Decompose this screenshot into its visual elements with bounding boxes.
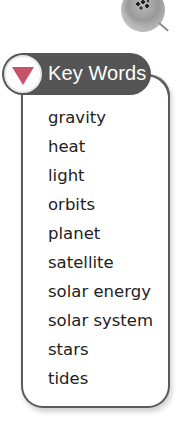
key-word-item: gravity (48, 107, 153, 136)
planet-icon (121, 0, 165, 32)
planet-spots (135, 0, 151, 10)
planet-tail (158, 22, 168, 31)
key-word-item: solar energy (48, 281, 153, 310)
key-word-item: satellite (48, 252, 153, 281)
triangle-down-icon (12, 67, 34, 85)
key-word-item: orbits (48, 194, 153, 223)
key-word-item: tides (48, 368, 153, 397)
key-words-list: gravity heat light orbits planet satelli… (48, 107, 153, 397)
key-words-title: Key Words (48, 60, 146, 86)
key-word-item: heat (48, 136, 153, 165)
key-word-item: stars (48, 339, 153, 368)
key-word-item: light (48, 165, 153, 194)
key-word-item: planet (48, 223, 153, 252)
key-words-header: Key Words (2, 53, 151, 95)
key-word-item: solar system (48, 310, 153, 339)
header-circle (4, 55, 42, 93)
